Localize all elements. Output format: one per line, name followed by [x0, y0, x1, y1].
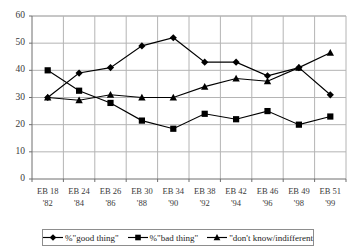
- square-marker: [139, 117, 145, 123]
- square-marker: [45, 67, 51, 73]
- plot-area: [0, 0, 356, 251]
- square-marker: [264, 108, 270, 114]
- legend-item-1[interactable]: %"good thing": [43, 232, 119, 243]
- legend-label: %"good thing": [65, 233, 119, 243]
- y-axis-tick-label: 0: [5, 173, 25, 183]
- square-marker: [135, 235, 141, 241]
- square-marker: [296, 122, 302, 128]
- y-axis-tick-label: 10: [5, 146, 25, 156]
- y-axis-tick-label: 30: [5, 92, 25, 102]
- triangle-marker: [327, 49, 334, 56]
- legend-swatch-diamond: [43, 232, 63, 243]
- square-marker: [170, 126, 176, 132]
- legend-swatch-triangle: [207, 232, 227, 243]
- diamond-marker: [50, 234, 57, 241]
- square-marker: [76, 88, 82, 94]
- legend-swatch-square: [128, 232, 148, 243]
- legend-label: %"bad thing": [150, 233, 199, 243]
- y-axis-tick-label: 60: [5, 10, 25, 20]
- square-marker: [107, 100, 113, 106]
- axes: [29, 16, 346, 182]
- y-axis-tick-label: 40: [5, 64, 25, 74]
- legend-item-2[interactable]: %"bad thing": [128, 232, 199, 243]
- square-marker: [233, 116, 239, 122]
- line-chart: 0102030405060 EB 18'82EB 24'84EB 26'86EB…: [0, 0, 356, 251]
- x-axis-tick-label: EB 51: [310, 186, 350, 196]
- y-axis-tick-label: 50: [5, 37, 25, 47]
- legend-item-3[interactable]: "don't know/indifferent: [207, 232, 313, 243]
- diamond-marker: [233, 59, 240, 66]
- legend-label: "don't know/indifferent: [229, 233, 313, 243]
- square-marker: [327, 113, 333, 119]
- y-axis-tick-label: 20: [5, 119, 25, 129]
- chart-legend: %"good thing"%"bad thing""don't know/ind…: [42, 229, 314, 246]
- x-axis-tick-sublabel: '99: [310, 198, 350, 208]
- square-marker: [202, 111, 208, 117]
